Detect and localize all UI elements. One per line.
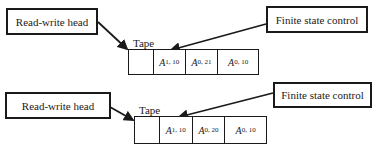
fsc-box-top: Finite state control [266,6,368,33]
fsc-label: Finite state control [281,89,363,101]
tape-cell: A1, 10 [160,117,193,143]
tape-top: A1, 10 A0, 21 A0, 10 [128,49,259,75]
tape-cell [135,117,160,143]
tape-bottom: A1, 10 A0, 20 A0, 10 [134,116,267,144]
tape-cell: A0, 10 [225,117,266,143]
tape-cell: A0, 10 [218,50,258,74]
fsc-label: Finite state control [276,14,358,26]
tape-cell: A0, 20 [193,117,226,143]
tape-label-top: Tape [133,37,154,49]
rw-head-box-bottom: Read-write head [5,92,111,119]
rw-head-label: Read-write head [16,16,88,28]
rw-head-box-top: Read-write head [6,8,98,35]
tape-label-bottom: Tape [139,104,160,116]
fsc-arrow-bottom [179,93,273,117]
tape-cell: A1, 10 [154,50,186,74]
rw-head-label: Read-write head [22,100,94,112]
fsc-arrow-top [171,24,266,50]
rw-head-arrow-top [98,22,127,49]
rw-head-arrow-bottom [110,107,133,120]
tape-cell [129,50,154,74]
tape-cell: A0, 21 [186,50,219,74]
fsc-box-bottom: Finite state control [273,82,372,108]
